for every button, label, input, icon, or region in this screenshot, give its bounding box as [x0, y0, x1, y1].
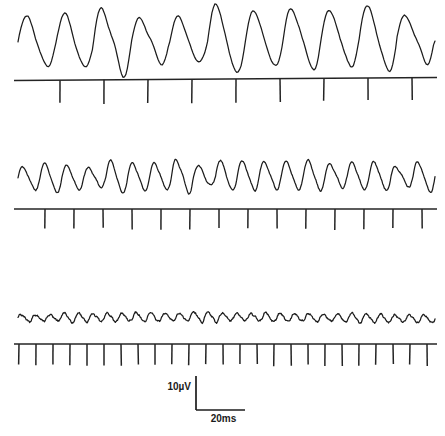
- figure-background: [0, 0, 445, 436]
- electrophysiology-figure: 10µV 20ms: [0, 0, 445, 436]
- scale-bar-horizontal-label: 20ms: [211, 413, 237, 424]
- scale-bar-vertical-label: 10µV: [167, 381, 191, 392]
- figure-container: 10µV 20ms: [0, 0, 445, 436]
